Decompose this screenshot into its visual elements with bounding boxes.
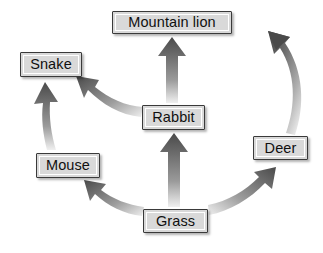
node-label-mouse: Mouse: [46, 158, 90, 173]
node-rabbit[interactable]: Rabbit: [142, 105, 205, 130]
node-grass[interactable]: Grass: [143, 209, 208, 233]
arrow-mouse-to-snake: [34, 82, 58, 150]
node-mountain-lion[interactable]: Mountain lion: [112, 11, 232, 34]
node-label-deer: Deer: [265, 141, 297, 156]
node-snake[interactable]: Snake: [20, 52, 82, 77]
node-label-snake: Snake: [30, 57, 72, 72]
arrow-grass-to-mouse: [84, 180, 144, 216]
arrow-grass-to-rabbit: [160, 133, 188, 207]
arrow-rabbit-to-snake: [76, 76, 143, 117]
node-label-mountain-lion: Mountain lion: [128, 15, 216, 30]
arrow-grass-to-deer: [208, 167, 276, 215]
node-mouse[interactable]: Mouse: [36, 153, 100, 178]
node-label-rabbit: Rabbit: [152, 110, 195, 125]
food-web-diagram: Mountain lion Snake Rabbit Deer Mouse Gr…: [0, 0, 323, 253]
node-deer[interactable]: Deer: [253, 136, 308, 160]
arrow-deer-to-mountain-lion: [268, 31, 301, 135]
arrow-rabbit-to-mountain-lion: [158, 37, 186, 103]
node-label-grass: Grass: [156, 214, 195, 229]
